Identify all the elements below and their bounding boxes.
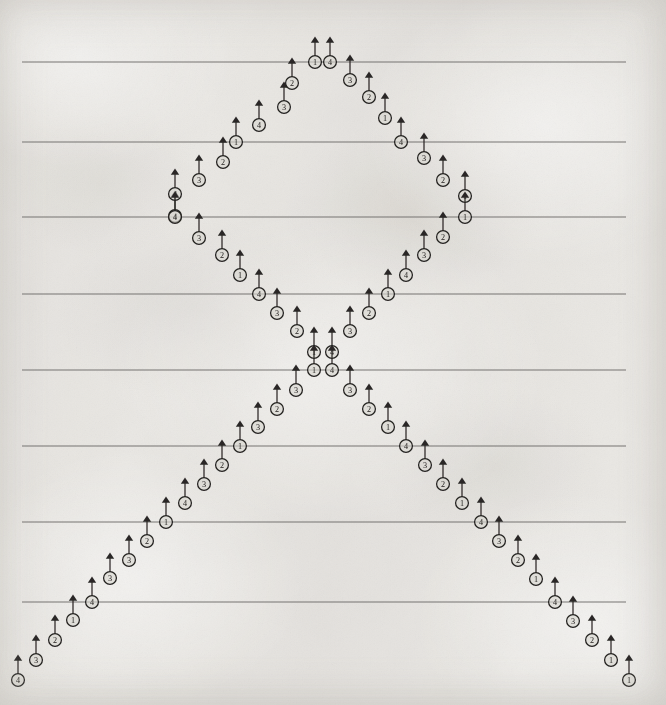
finger-number: 2	[220, 461, 224, 470]
finger-number: 1	[463, 213, 467, 222]
arrow-up-icon	[365, 288, 373, 294]
finger-number: 2	[290, 79, 294, 88]
arrow-up-icon	[346, 365, 354, 371]
finger-number: 3	[294, 386, 298, 395]
finger-number: 1	[386, 290, 390, 299]
finger-number: 1	[609, 656, 613, 665]
diagram-vector-layer: 4432143214321432114321432112341234432312…	[0, 0, 666, 705]
finger-number: 3	[497, 537, 501, 546]
finger-number: 2	[441, 480, 445, 489]
note-marker: 2	[141, 516, 154, 548]
finger-number: 1	[386, 423, 390, 432]
arrow-up-icon	[420, 230, 428, 236]
arrow-up-icon	[439, 459, 447, 465]
finger-number: 3	[34, 656, 38, 665]
note-marker: 1	[382, 269, 395, 301]
note-marker: 3	[418, 133, 431, 165]
arrow-up-icon	[397, 117, 405, 123]
note-marker: 3	[344, 365, 357, 397]
finger-number: 4	[553, 598, 557, 607]
note-marker: 2	[437, 459, 450, 491]
finger-number: 2	[590, 636, 594, 645]
finger-number: 4	[404, 271, 408, 280]
note-marker: 3	[419, 440, 432, 472]
scanned-page: 4432143214321432114321432112341234432312…	[0, 0, 666, 705]
finger-number: 1	[71, 616, 75, 625]
arrow-up-icon	[106, 553, 114, 559]
note-marker: 1	[160, 497, 173, 529]
note-marker: 4	[253, 100, 266, 132]
note-marker: 2	[49, 615, 62, 647]
finger-number: 1	[534, 575, 538, 584]
arrow-up-icon	[346, 306, 354, 312]
finger-number: 1	[312, 366, 316, 375]
arrow-up-icon	[69, 595, 77, 601]
finger-number: 4	[90, 598, 94, 607]
finger-number: 3	[256, 423, 260, 432]
note-marker: 2	[291, 306, 304, 338]
finger-number: 1	[238, 442, 242, 451]
finger-number: 3	[571, 617, 575, 626]
arrow-up-icon	[88, 577, 96, 583]
finger-number: 4	[399, 138, 403, 147]
arrow-up-icon	[51, 615, 59, 621]
note-marker: 4	[86, 577, 99, 609]
note-marker: 1	[67, 595, 80, 627]
finger-number: 3	[127, 556, 131, 565]
finger-number: 2	[145, 537, 149, 546]
arrow-up-icon	[381, 93, 389, 99]
note-marker: 2	[437, 155, 450, 187]
note-marker: 1	[605, 635, 618, 667]
arrow-up-icon	[195, 213, 203, 219]
note-marker: 1	[234, 421, 247, 453]
arrow-up-icon	[495, 516, 503, 522]
note-marker: 1	[530, 554, 543, 586]
note-markers-group: 4432143214321432114321432112341234432312…	[12, 37, 636, 687]
note-marker: 1	[309, 37, 322, 69]
note-marker: 3	[567, 596, 580, 628]
note-marker: 3	[418, 230, 431, 262]
arrow-up-icon	[402, 250, 410, 256]
note-marker: 3	[123, 535, 136, 567]
arrow-up-icon	[458, 478, 466, 484]
finger-number: 4	[479, 518, 483, 527]
finger-number: 1	[234, 138, 238, 147]
arrow-up-icon	[254, 402, 262, 408]
finger-number: 4	[257, 121, 261, 130]
arrow-up-icon	[32, 635, 40, 641]
arrow-up-icon	[236, 250, 244, 256]
finger-number: 3	[423, 461, 427, 470]
finger-number: 1	[313, 58, 317, 67]
arrow-up-icon	[200, 459, 208, 465]
finger-number: 4	[183, 499, 187, 508]
staff-lines-group	[22, 62, 626, 602]
arrow-up-icon	[162, 497, 170, 503]
finger-number: 2	[441, 176, 445, 185]
arrow-up-icon	[569, 596, 577, 602]
finger-number: 1	[383, 114, 387, 123]
note-marker: 2	[217, 137, 230, 169]
finger-number: 3	[197, 234, 201, 243]
note-marker: 2	[363, 288, 376, 320]
arrow-up-icon	[402, 421, 410, 427]
arrow-up-icon	[365, 72, 373, 78]
finger-number: 1	[164, 518, 168, 527]
finger-number: 4	[328, 58, 332, 67]
finger-number: 3	[202, 480, 206, 489]
finger-number: 4	[330, 366, 334, 375]
arrow-up-icon	[293, 306, 301, 312]
finger-number: 2	[221, 158, 225, 167]
finger-number: 2	[220, 251, 224, 260]
note-marker: 4	[395, 117, 408, 149]
note-marker: 4	[324, 37, 337, 69]
finger-number: 3	[348, 76, 352, 85]
arrow-up-icon	[14, 655, 22, 661]
note-marker: 2	[363, 72, 376, 104]
note-marker: 1	[234, 250, 247, 282]
finger-number: 2	[516, 556, 520, 565]
note-marker: 2	[216, 440, 229, 472]
arrow-up-icon	[365, 384, 373, 390]
finger-number: 1	[238, 271, 242, 280]
arrow-up-icon	[195, 155, 203, 161]
note-marker: 1	[379, 93, 392, 125]
